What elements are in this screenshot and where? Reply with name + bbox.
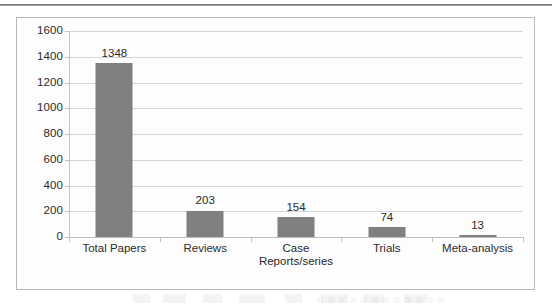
x-axis-category-label: Total Papers [69, 242, 160, 255]
y-axis-tick-label: 800 [19, 128, 63, 140]
y-axis-tick-label: 1400 [19, 51, 63, 63]
x-axis-category-label: Meta-analysis [432, 242, 523, 255]
x-axis-category-labels: Total PapersReviewsCase Reports/seriesTr… [69, 242, 523, 286]
bar[interactable] [96, 63, 133, 237]
bar[interactable] [187, 211, 224, 237]
y-axis-tick-label: 1000 [19, 103, 63, 115]
x-axis-category-label: Trials [341, 242, 432, 255]
plot-area: 13482031547413 [69, 31, 523, 237]
y-axis-tick-label: 200 [19, 206, 63, 218]
y-axis-tick-labels: 16001400120010008006004002000 [17, 31, 63, 237]
bar-value-label: 1348 [102, 48, 128, 60]
x-axis-category-label: Case Reports/series [251, 242, 342, 268]
x-axis-category-label: Reviews [160, 242, 251, 255]
bar-value-label: 13 [471, 220, 484, 232]
chart-frame: 16001400120010008006004002000 1348203154… [16, 17, 535, 290]
bar-value-label: 154 [286, 202, 305, 214]
bar-group[interactable]: 74 [341, 31, 432, 237]
y-axis-tick-label: 0 [19, 231, 63, 243]
bar-group[interactable]: 203 [160, 31, 251, 237]
y-axis-tick-label: 400 [19, 180, 63, 192]
bar-group[interactable]: 13 [432, 31, 523, 237]
y-axis-tick-label: 1600 [19, 25, 63, 37]
page-horizontal-rule [0, 4, 552, 6]
scan-ghost-artifact [120, 294, 450, 303]
y-axis-tick-label: 1200 [19, 77, 63, 89]
bar[interactable] [459, 235, 496, 237]
x-tickmark [523, 237, 524, 242]
gridline [69, 237, 523, 238]
bar-value-label: 203 [196, 195, 215, 207]
y-axis-tick-label: 600 [19, 154, 63, 166]
bar[interactable] [277, 217, 314, 237]
bar[interactable] [368, 227, 405, 237]
bar-group[interactable]: 1348 [69, 31, 160, 237]
bar-group[interactable]: 154 [251, 31, 342, 237]
bar-value-label: 74 [380, 212, 393, 224]
